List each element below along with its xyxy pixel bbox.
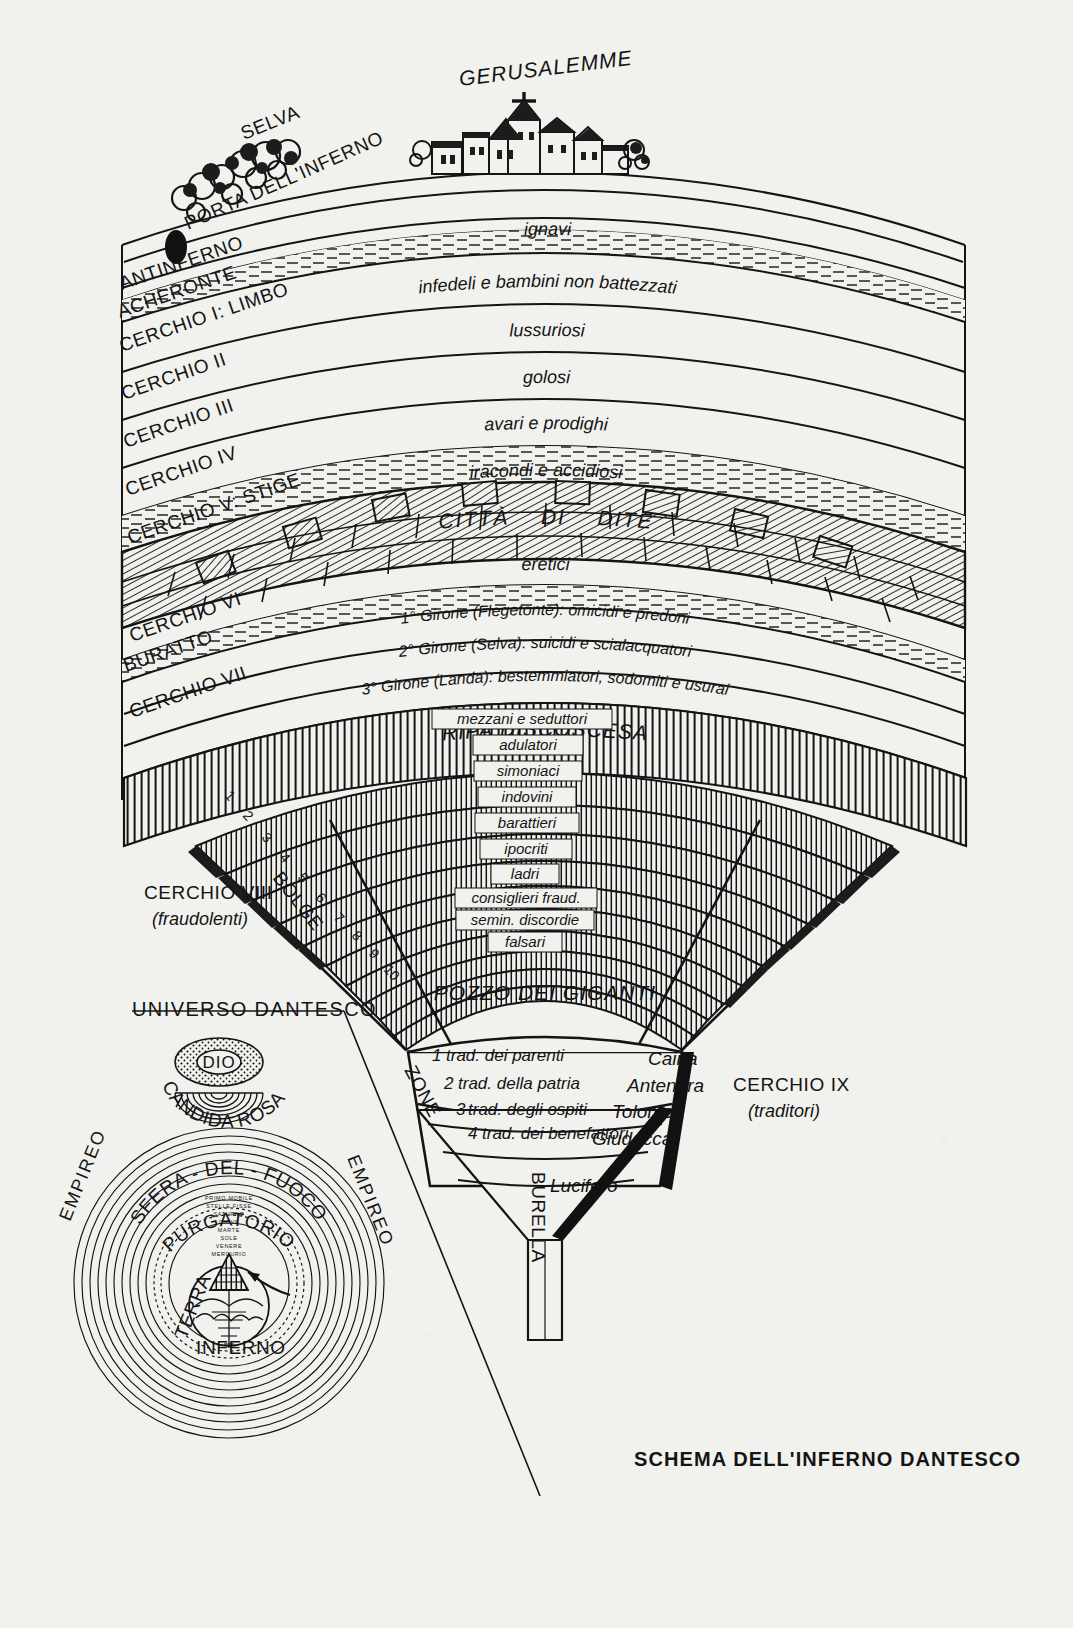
sinners-iracondi-accidiosi: iracondi e accidiosi [469,460,624,483]
bolgia-number-10: 10 [381,961,403,983]
inset-title: UNIVERSO DANTESCO [132,998,377,1020]
sphere-sole: SOLE [220,1235,237,1241]
sinners-avari-prodighi: avari e prodighi [484,413,610,435]
zone-name-antenora: Antenora [626,1075,704,1096]
girone-3: 3° Girone (Landa): bestemmiatori, sodomi… [360,667,730,698]
sinners-eretici: eretici [521,554,571,574]
bolgia-7-label: ladri [511,865,540,882]
sphere-primo-mobile: PRIMO MOBILE [205,1195,253,1201]
empireo-left-label: EMPIREO [55,1126,110,1223]
zone-name-tolomea: Tolomea [612,1101,684,1122]
sphere-venere: VENERE [216,1243,242,1249]
bolgia-3-label: simoniaci [497,762,560,779]
bolgia-1-label: mezzani e seduttori [457,710,588,727]
zone-name-giudecca: Giudecca [592,1128,672,1149]
girone-2: 2° Girone (Selva): suicidi e scialacquat… [397,634,693,660]
label-lucifero: Lucifero [550,1175,618,1196]
zone-1-number: 1 [432,1046,441,1065]
label-burella: BURELLA [528,1172,549,1263]
zone-name-caina: Caina [648,1048,698,1069]
page-title: SCHEMA DELL'INFERNO DANTESCO [634,1448,1021,1470]
label-cerchio-8: CERCHIO VIII [144,882,273,903]
bolgia-number-1: 1 [222,787,239,804]
bolge-name-plates: mezzani e seduttori adulatori simoniaci … [432,709,612,952]
schema-inferno-dantesco: GERUSALEMME SELVA PORTA DELL'INFERNO [0,0,1073,1628]
sphere-stelle-fisse: STELLE FISSE [206,1203,252,1209]
zone-2-number: 2 [443,1074,454,1093]
empireo-right-label: EMPIREO [343,1152,398,1249]
bolgia-number-8: 8 [349,927,366,944]
zone-2-sin: trad. della patria [458,1074,580,1093]
candida-rosa-label: CANDIDA ROSA [158,1077,289,1132]
inferno-inset-label: INFERNO [196,1337,286,1358]
label-cerchio-8-sub: (fraudolenti) [152,909,248,929]
label-cerchio-3: CERCHIO III [120,394,236,451]
bolgia-10-label: falsari [505,933,546,950]
bolgia-8-label: consiglieri fraud. [471,889,580,906]
bolgia-number-3: 3 [259,829,276,846]
bolgia-2-label: adulatori [499,736,557,753]
pozzo-dei-giganti-label: POZZO DEI GIGANTI [434,981,656,1004]
bolgia-number-7: 7 [331,909,348,926]
zone-4-number: 4 [468,1124,477,1143]
label-zone: ZONE [400,1062,444,1121]
label-cerchio-7: CERCHIO VII [126,662,249,722]
bolgia-number-9: 9 [366,945,383,962]
bolgia-number-2: 2 [240,807,257,824]
sphere-mercurio: MERCURIO [212,1251,247,1257]
zone-3-sin: trad. degli ospiti [468,1100,588,1119]
bolgia-5-label: barattieri [498,814,557,831]
dio-label: DIO [202,1053,235,1072]
label-cerchio-9: CERCHIO IX [733,1074,850,1095]
zone-1-sin: trad. dei parenti [446,1046,565,1065]
sinners-golosi: golosi [523,367,572,387]
sinners-lussuriosi: lussuriosi [509,320,586,341]
bolgia-4-label: indovini [502,788,554,805]
sinners-limbo: infedeli e bambini non battezzati [417,271,678,298]
diagram-labels: ANTINFERNO ACHERONTE CERCHIO I: LIMBO CE… [0,0,1073,1628]
bolgia-9-label: semin. discordie [471,911,579,928]
label-cerchio-4: CERCHIO IV [122,442,239,500]
label-cerchio-2: CERCHIO II [118,348,228,403]
zone-3-number: 3 [456,1100,466,1119]
bolgia-6-label: ipocriti [504,840,548,857]
girone-1: 1° Girone (Flegetonte): omicidi e predon… [399,601,691,627]
label-cerchio-9-sub: (traditori) [748,1101,820,1121]
bolgia-number-6: 6 [313,889,330,906]
terra-label: TERRA [170,1271,215,1341]
bolgia-number-4: 4 [277,849,294,866]
citta-di-dite-label: CITTÀ DI DITE [437,505,654,533]
sinners-ignavi: ignavi [524,219,573,239]
